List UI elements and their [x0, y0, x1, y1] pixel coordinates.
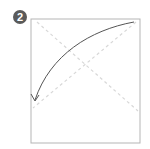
- fold-diagram: [0, 0, 150, 149]
- paper-square-outline: [31, 19, 140, 143]
